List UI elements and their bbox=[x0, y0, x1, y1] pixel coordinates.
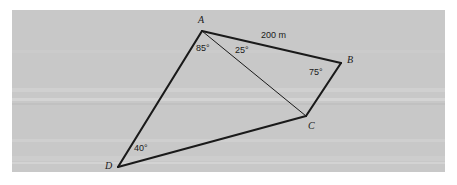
vertex-label-d: D bbox=[105, 161, 112, 171]
vertex-label-a: A bbox=[198, 15, 204, 25]
quadrilateral-diagram bbox=[0, 0, 457, 185]
vertex-label-b: B bbox=[347, 55, 353, 65]
angle-ABC-label: 75° bbox=[309, 68, 323, 77]
edge-group bbox=[118, 31, 341, 167]
vertex-label-c: C bbox=[308, 121, 315, 131]
angle-ADC-label: 40° bbox=[134, 144, 148, 153]
angle-CAB-label: 25° bbox=[235, 46, 249, 55]
angle-DAC-label: 85° bbox=[196, 44, 210, 53]
edge-CD bbox=[118, 116, 306, 167]
diagram-page: ABCD85°25°75°40°200 m bbox=[0, 0, 457, 185]
side-AB-length-label: 200 m bbox=[261, 31, 286, 40]
